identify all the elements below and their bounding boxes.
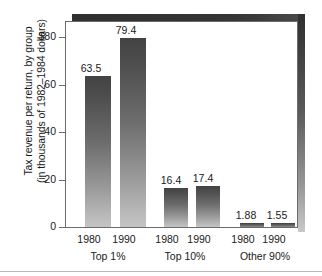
plot-shadow-top [72, 14, 305, 21]
bar-chart-figure: Tax revenue per return, by group (in tho… [0, 0, 322, 276]
x-tick-label-top1-1980: 1980 [69, 233, 109, 246]
y-axis-title-line-2: (in thousands of 1982–1984 dollars) [35, 19, 48, 183]
bottom-divider [0, 271, 322, 272]
bar-value-top10-1990: 17.4 [184, 172, 222, 184]
x-tick-label-top1-1990: 1990 [104, 233, 144, 246]
y-tick-label-0: 0 [50, 220, 56, 233]
y-tick-label-80: $80 [38, 30, 56, 43]
y-tick-20: 20 [0, 180, 65, 181]
x-group-label-other90: Other 90% [231, 250, 299, 263]
y-tick-label-20: 20 [44, 173, 56, 186]
y-tick-60: 60 [0, 85, 65, 86]
y-tick-label-40: 40 [44, 125, 56, 138]
x-tick-label-top10-1990: 1990 [179, 233, 219, 246]
x-group-label-top1: Top 1% [82, 250, 134, 263]
y-tick-80: $80 [0, 37, 65, 38]
plot-shadow-right [298, 14, 305, 232]
bar-top10-1990[interactable] [196, 186, 220, 227]
bar-value-top1-1990: 79.4 [107, 24, 145, 36]
bar-other90-1980[interactable] [240, 223, 264, 228]
bar-top1-1990[interactable] [120, 38, 146, 227]
x-group-label-top10: Top 10% [157, 250, 213, 263]
bar-top10-1980[interactable] [164, 188, 188, 227]
x-tick-label-other90-1990: 1990 [254, 233, 294, 246]
y-tick-40: 40 [0, 132, 65, 133]
y-axis-title-line-1: Tax revenue per return, by group [22, 26, 35, 175]
bar-other90-1990[interactable] [271, 223, 295, 227]
bar-value-top1-1980: 63.5 [72, 62, 110, 74]
bar-value-other90-1990: 1.55 [257, 209, 297, 221]
bar-top1-1980[interactable] [85, 76, 111, 227]
bars-layer [65, 21, 298, 228]
y-tick-0: 0 [0, 227, 65, 228]
y-tick-label-60: 60 [44, 78, 56, 91]
